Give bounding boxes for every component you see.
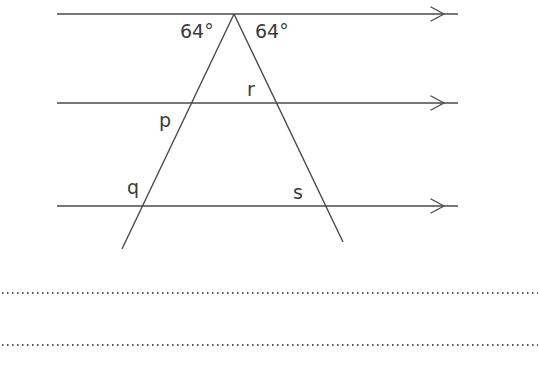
transversal-left xyxy=(122,14,234,249)
angle-label-s: s xyxy=(293,181,303,203)
angle-label-p: p xyxy=(159,109,171,131)
parallel-lines-diagram: 64° 64° r p q s xyxy=(0,0,538,375)
angle-label-right: 64° xyxy=(255,20,289,42)
parallel-line-middle xyxy=(57,96,458,110)
angle-label-r: r xyxy=(247,78,255,100)
parallel-line-bottom xyxy=(57,199,458,213)
angle-label-left: 64° xyxy=(180,20,214,42)
angle-label-q: q xyxy=(127,176,139,198)
parallel-line-top xyxy=(57,7,458,21)
transversal-right xyxy=(234,14,343,242)
